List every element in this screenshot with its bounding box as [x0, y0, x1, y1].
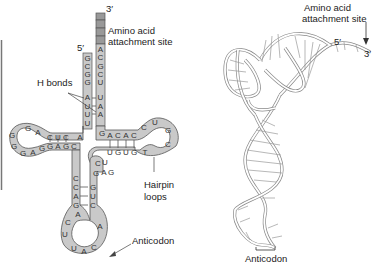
svg-text:G: G	[131, 148, 137, 157]
three-prime-label-right: 3′	[364, 48, 371, 59]
svg-text:A: A	[35, 128, 41, 137]
svg-text:C: C	[73, 183, 79, 192]
svg-text:C: C	[65, 218, 71, 227]
svg-text:C: C	[90, 201, 96, 210]
cloverleaf-diagram: G C G G A U U U A C G C U U A A A C U C …	[9, 3, 178, 257]
svg-text:G: G	[47, 142, 53, 151]
svg-text:C: C	[47, 133, 53, 142]
amino-acid-site-label-right-1: Amino acid	[304, 2, 351, 13]
anticodon-label-left: Anticodon	[132, 235, 174, 246]
svg-text:C: C	[141, 123, 147, 132]
svg-text:C: C	[91, 243, 97, 252]
anticodon-label-right: Anticodon	[245, 253, 287, 264]
svg-text:C: C	[98, 53, 104, 62]
svg-text:A: A	[73, 192, 79, 201]
acceptor-extension	[96, 13, 105, 44]
svg-text:T: T	[143, 148, 148, 157]
svg-text:C: C	[115, 131, 121, 140]
svg-text:U: U	[107, 148, 113, 157]
svg-text:U: U	[85, 119, 91, 128]
svg-text:G: G	[25, 124, 31, 133]
svg-text:G: G	[165, 126, 171, 135]
svg-text:G: G	[99, 129, 105, 138]
svg-text:U: U	[62, 230, 68, 239]
svg-text:G: G	[63, 142, 69, 151]
amino-acid-site-label-1: Amino acid	[108, 25, 155, 36]
attachment-arrow-icon	[363, 38, 369, 45]
svg-text:A: A	[77, 133, 83, 142]
svg-text:G: G	[39, 144, 45, 153]
svg-text:G: G	[108, 168, 114, 177]
five-prime-label-left: 5′	[77, 42, 84, 53]
svg-text:G: G	[90, 183, 96, 192]
svg-text:U: U	[123, 148, 129, 157]
svg-text:G: G	[84, 78, 90, 87]
svg-text:A: A	[123, 131, 129, 140]
svg-text:U: U	[152, 118, 158, 127]
five-prime-label-right: 5′	[334, 36, 341, 47]
ribbon-diagram: Amino acid attachment site 5′ 3′ Anticod…	[225, 2, 371, 264]
hairpin-loops-label-1: Hairpin	[144, 179, 174, 190]
svg-text:G: G	[20, 149, 26, 158]
svg-text:A: A	[75, 210, 81, 219]
svg-text:C: C	[63, 133, 69, 142]
ribbon-backbone	[225, 34, 370, 248]
svg-text:G: G	[9, 131, 15, 140]
hairpin-loops-label-2: loops	[144, 191, 167, 202]
h-bonds-label: H bonds	[37, 77, 73, 88]
svg-text:C: C	[165, 140, 171, 149]
amino-acid-site-label-right-2: attachment site	[302, 13, 366, 24]
svg-text:U: U	[71, 244, 77, 253]
svg-text:U: U	[102, 158, 108, 167]
svg-text:G: G	[93, 169, 99, 178]
svg-text:A: A	[97, 222, 103, 231]
three-prime-label-left: 3′	[106, 3, 113, 14]
svg-text:G: G	[115, 148, 121, 157]
trna-figure: G C G G A U U U A C G C U U A A A C U C …	[0, 0, 373, 270]
svg-text:U: U	[90, 192, 96, 201]
svg-text:C: C	[131, 131, 137, 140]
svg-text:G: G	[73, 201, 79, 210]
svg-text:U: U	[55, 133, 61, 142]
svg-text:U: U	[85, 110, 91, 119]
svg-text:A: A	[55, 142, 61, 151]
amino-acid-site-label-2: attachment site	[108, 36, 172, 47]
svg-text:A: A	[107, 131, 113, 140]
svg-text:U: U	[98, 78, 104, 87]
svg-text:G: G	[11, 142, 17, 151]
svg-text:U: U	[98, 93, 104, 102]
svg-text:C: C	[73, 174, 79, 183]
svg-text:A: A	[98, 110, 104, 119]
svg-text:C: C	[71, 142, 77, 151]
svg-text:A: A	[85, 93, 91, 102]
svg-text:C: C	[95, 159, 101, 168]
svg-text:A: A	[81, 247, 87, 256]
svg-text:A: A	[30, 148, 36, 157]
svg-text:A: A	[101, 168, 107, 177]
